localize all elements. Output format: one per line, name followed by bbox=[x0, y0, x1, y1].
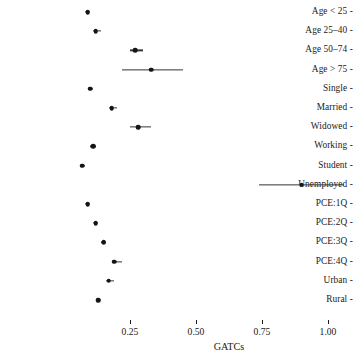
category-label-text: Age 50–74 bbox=[305, 45, 347, 55]
category-label: Single- bbox=[249, 84, 353, 93]
category-label: Working- bbox=[249, 142, 353, 151]
x-axis-title: GATCs bbox=[214, 342, 245, 352]
category-label-text: Urban bbox=[324, 275, 348, 285]
category-label: PCE:1Q- bbox=[249, 199, 353, 208]
category-label-text: PCE:3Q bbox=[316, 237, 348, 247]
estimate-marker bbox=[136, 125, 141, 130]
x-axis-tick-label: 1.00 bbox=[320, 327, 337, 337]
estimate-marker bbox=[93, 221, 98, 226]
forest-plot: Age < 25-Age 25–40-Age 50–74-Age > 75-Si… bbox=[0, 0, 353, 359]
estimate-marker bbox=[85, 10, 90, 15]
category-label-text: Age 25–40 bbox=[305, 26, 347, 36]
category-label: PCE:2Q- bbox=[249, 219, 353, 228]
category-label: Age < 25- bbox=[249, 7, 353, 16]
category-label: Age 50–74- bbox=[249, 46, 353, 55]
x-axis-tick-label: 0.25 bbox=[122, 327, 139, 337]
estimate-marker bbox=[96, 298, 101, 303]
x-axis-tick-label: 0.75 bbox=[254, 327, 271, 337]
category-label: Age > 75- bbox=[249, 65, 353, 74]
category-label: PCE:3Q- bbox=[249, 238, 353, 247]
category-label-text: Widowed bbox=[311, 122, 347, 132]
category-label-text: Age < 25 bbox=[312, 6, 347, 16]
estimate-marker bbox=[85, 202, 90, 207]
x-axis-tick bbox=[328, 320, 329, 324]
category-label-text: Married bbox=[317, 102, 348, 112]
category-label: Age 25–40- bbox=[249, 27, 353, 36]
estimate-marker bbox=[93, 29, 98, 34]
estimate-marker bbox=[109, 106, 114, 111]
confidence-interval-line bbox=[130, 127, 151, 128]
estimate-marker bbox=[80, 163, 85, 168]
category-label-text: Student bbox=[318, 160, 347, 170]
category-label: Widowed- bbox=[249, 123, 353, 132]
x-axis-tick bbox=[262, 320, 263, 324]
category-label: Married- bbox=[249, 103, 353, 112]
estimate-marker bbox=[88, 87, 93, 92]
estimate-marker bbox=[107, 279, 112, 284]
estimate-marker bbox=[299, 183, 304, 188]
category-label-text: PCE:2Q bbox=[316, 218, 348, 228]
estimate-marker bbox=[133, 48, 138, 53]
estimate-marker bbox=[149, 67, 154, 72]
x-axis-tick bbox=[196, 320, 197, 324]
estimate-marker bbox=[101, 240, 106, 245]
category-label: PCE:4Q- bbox=[249, 257, 353, 266]
x-axis-tick-label: 0.50 bbox=[188, 327, 205, 337]
category-label-text: Working bbox=[314, 141, 347, 151]
category-label-text: Age > 75 bbox=[312, 64, 347, 74]
category-label-text: Single bbox=[323, 83, 347, 93]
category-label-text: PCE:4Q bbox=[316, 256, 348, 266]
estimate-marker bbox=[112, 259, 117, 264]
estimate-marker bbox=[91, 144, 96, 149]
x-axis-tick bbox=[130, 320, 131, 324]
category-label: Urban- bbox=[249, 276, 353, 285]
category-label: Student- bbox=[249, 161, 353, 170]
category-label: Rural- bbox=[249, 295, 353, 304]
category-label-text: PCE:1Q bbox=[316, 198, 348, 208]
category-label-text: Rural bbox=[326, 294, 347, 304]
